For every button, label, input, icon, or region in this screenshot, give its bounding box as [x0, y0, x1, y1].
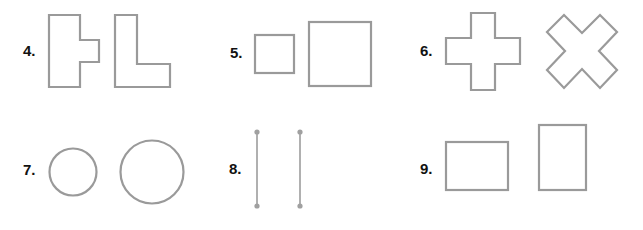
endpoint-dot [254, 203, 259, 208]
small-square [255, 35, 294, 73]
portrait-rectangle [539, 125, 586, 190]
endpoint-dot [297, 203, 302, 208]
large-circle [121, 141, 184, 204]
small-circle [50, 149, 97, 196]
endpoint-dot [254, 129, 259, 134]
shapes-canvas [0, 0, 643, 230]
t-shape [49, 15, 99, 87]
l-shape [115, 15, 170, 87]
x-shape [547, 15, 617, 88]
endpoint-dot [297, 129, 302, 134]
large-square [309, 22, 371, 86]
plus-shape [446, 13, 520, 90]
landscape-rectangle [446, 142, 508, 190]
